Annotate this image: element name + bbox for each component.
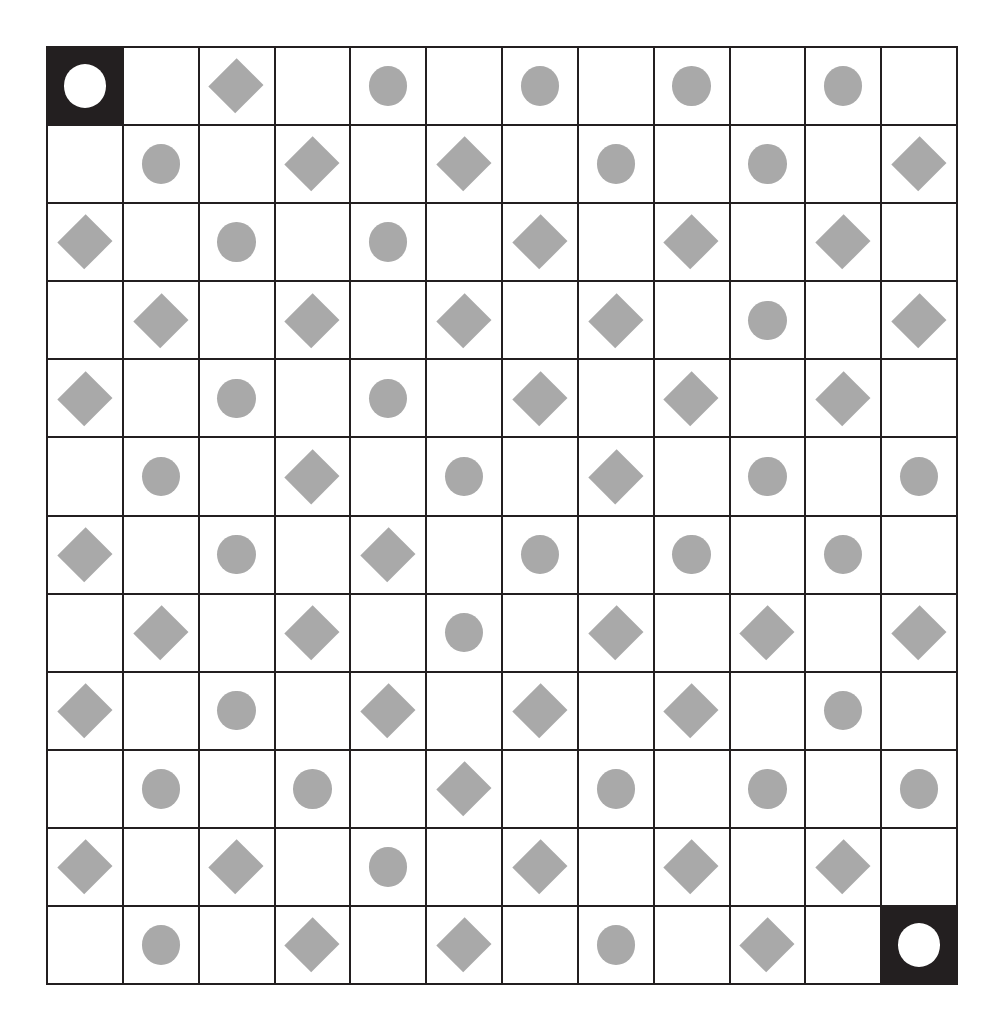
grid-cell[interactable]	[655, 907, 731, 985]
grid-cell[interactable]	[655, 360, 731, 438]
grid-cell[interactable]	[427, 595, 503, 673]
grid-cell[interactable]	[579, 204, 655, 282]
grid-cell[interactable]	[579, 595, 655, 673]
grid-cell[interactable]	[731, 829, 807, 907]
grid-cell[interactable]	[124, 48, 200, 126]
grid-cell[interactable]	[806, 204, 882, 282]
grid-cell[interactable]	[731, 438, 807, 516]
grid-cell[interactable]	[276, 751, 352, 829]
grid-cell[interactable]	[200, 751, 276, 829]
grid-cell[interactable]	[655, 673, 731, 751]
grid-cell[interactable]	[655, 517, 731, 595]
grid-cell[interactable]	[655, 48, 731, 126]
grid-cell[interactable]	[276, 829, 352, 907]
grid-cell[interactable]	[806, 48, 882, 126]
grid-cell[interactable]	[276, 204, 352, 282]
grid-cell[interactable]	[351, 829, 427, 907]
grid-cell[interactable]	[124, 829, 200, 907]
grid-cell[interactable]	[579, 907, 655, 985]
grid-cell[interactable]	[731, 48, 807, 126]
grid-cell[interactable]	[882, 673, 958, 751]
grid-cell[interactable]	[731, 360, 807, 438]
grid-cell[interactable]	[276, 907, 352, 985]
grid-cell[interactable]	[579, 751, 655, 829]
grid-cell[interactable]	[200, 204, 276, 282]
grid-cell[interactable]	[124, 282, 200, 360]
grid-cell[interactable]	[48, 360, 124, 438]
grid-cell[interactable]	[427, 360, 503, 438]
grid-cell[interactable]	[503, 595, 579, 673]
grid-cell[interactable]	[882, 438, 958, 516]
grid-cell[interactable]	[655, 126, 731, 204]
grid-cell[interactable]	[276, 438, 352, 516]
grid-cell[interactable]	[655, 282, 731, 360]
grid-cell[interactable]	[48, 673, 124, 751]
grid-cell[interactable]	[503, 204, 579, 282]
grid-cell[interactable]	[48, 751, 124, 829]
grid-cell[interactable]	[655, 829, 731, 907]
grid-cell[interactable]	[427, 673, 503, 751]
shape-grid[interactable]	[46, 46, 958, 985]
grid-cell[interactable]	[503, 907, 579, 985]
grid-cell[interactable]	[882, 595, 958, 673]
grid-cell[interactable]	[200, 829, 276, 907]
grid-cell[interactable]	[882, 829, 958, 907]
grid-cell[interactable]	[200, 907, 276, 985]
grid-cell[interactable]	[427, 438, 503, 516]
grid-cell[interactable]	[806, 126, 882, 204]
grid-cell[interactable]	[427, 829, 503, 907]
grid-cell[interactable]	[503, 517, 579, 595]
grid-cell[interactable]	[48, 438, 124, 516]
grid-cell[interactable]	[276, 595, 352, 673]
grid-cell[interactable]	[806, 360, 882, 438]
grid-cell[interactable]	[351, 282, 427, 360]
grid-cell[interactable]	[200, 282, 276, 360]
grid-cell[interactable]	[806, 517, 882, 595]
grid-cell[interactable]	[200, 595, 276, 673]
grid-cell[interactable]	[655, 751, 731, 829]
grid-cell[interactable]	[48, 595, 124, 673]
grid-cell[interactable]	[124, 438, 200, 516]
grid-cell[interactable]	[124, 360, 200, 438]
grid-cell[interactable]	[503, 673, 579, 751]
grid-cell[interactable]	[276, 673, 352, 751]
grid-cell[interactable]	[124, 673, 200, 751]
grid-cell[interactable]	[655, 438, 731, 516]
grid-cell[interactable]	[731, 282, 807, 360]
grid-cell[interactable]	[731, 751, 807, 829]
grid-cell[interactable]	[882, 282, 958, 360]
grid-cell[interactable]	[882, 204, 958, 282]
grid-cell[interactable]	[503, 829, 579, 907]
grid-cell[interactable]	[276, 48, 352, 126]
grid-cell[interactable]	[276, 282, 352, 360]
grid-cell[interactable]	[731, 907, 807, 985]
grid-cell[interactable]	[579, 126, 655, 204]
grid-cell[interactable]	[200, 517, 276, 595]
grid-cell[interactable]	[351, 595, 427, 673]
grid-cell[interactable]	[48, 48, 124, 126]
grid-cell[interactable]	[503, 751, 579, 829]
grid-cell[interactable]	[579, 48, 655, 126]
grid-cell[interactable]	[351, 204, 427, 282]
grid-cell[interactable]	[124, 595, 200, 673]
grid-cell[interactable]	[882, 517, 958, 595]
grid-cell[interactable]	[579, 438, 655, 516]
grid-cell[interactable]	[503, 48, 579, 126]
grid-cell[interactable]	[655, 595, 731, 673]
grid-cell[interactable]	[427, 517, 503, 595]
grid-cell[interactable]	[427, 126, 503, 204]
grid-cell[interactable]	[882, 360, 958, 438]
grid-cell[interactable]	[200, 438, 276, 516]
grid-cell[interactable]	[427, 751, 503, 829]
grid-cell[interactable]	[579, 517, 655, 595]
grid-cell[interactable]	[806, 907, 882, 985]
grid-cell[interactable]	[124, 126, 200, 204]
grid-cell[interactable]	[48, 517, 124, 595]
grid-cell[interactable]	[579, 829, 655, 907]
grid-cell[interactable]	[48, 907, 124, 985]
grid-cell[interactable]	[579, 360, 655, 438]
grid-cell[interactable]	[124, 751, 200, 829]
grid-cell[interactable]	[351, 517, 427, 595]
grid-cell[interactable]	[200, 48, 276, 126]
grid-cell[interactable]	[731, 126, 807, 204]
